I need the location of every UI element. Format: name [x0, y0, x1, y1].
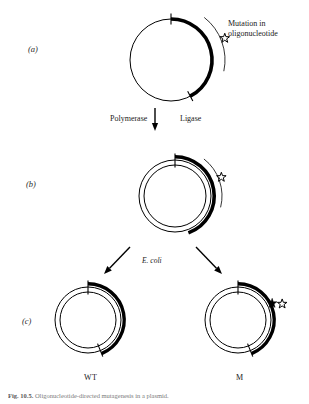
- mutation-annotation-line1: Mutation in: [228, 19, 278, 29]
- panel-label-a: (a): [28, 44, 38, 54]
- arrow-a-to-b: [152, 108, 158, 131]
- oligonucleotide-arc: [171, 19, 212, 96]
- complementary-strand: [144, 165, 206, 227]
- arrow-b-to-wt: [104, 247, 130, 274]
- figure-canvas: [0, 0, 309, 404]
- mutant-label: M: [236, 373, 244, 382]
- mutation-star-open: [217, 172, 227, 181]
- template-strand: [55, 287, 121, 353]
- oligonucleotide-arc: [175, 157, 214, 233]
- mutation-star-open: [277, 299, 287, 308]
- oligonucleotide-arc: [88, 284, 124, 354]
- caption-number: Fig. 10.5.: [8, 392, 33, 399]
- arrow-shaft: [110, 247, 130, 268]
- arrow-b-to-m: [196, 247, 222, 274]
- panel-label-c: (c): [22, 316, 31, 326]
- oligonucleotide-arc: [238, 284, 274, 354]
- wild-type-circle: [55, 281, 124, 357]
- ligase-label: Ligase: [180, 114, 201, 124]
- mutation-annotation-line2: oligonucleotide: [228, 29, 278, 39]
- ecoli-label: E. coli: [142, 256, 162, 265]
- heteroduplex-circle-b: [139, 154, 226, 233]
- diagram-svg: [0, 0, 309, 404]
- template-strand: [139, 160, 211, 232]
- panel-label-b: (b): [26, 179, 36, 189]
- template-circle-a: [130, 14, 230, 102]
- mutation-annotation: Mutation in oligonucleotide: [228, 19, 278, 39]
- mutant-circle: [205, 281, 287, 357]
- arrow-shaft: [196, 247, 216, 268]
- wild-type-label: WT: [84, 373, 97, 382]
- complementary-strand: [60, 292, 116, 348]
- figure-caption: Fig. 10.5. Oligonucleotide-directed muta…: [8, 392, 309, 399]
- arrow-head: [152, 123, 158, 131]
- polymerase-label: Polymerase: [110, 114, 147, 124]
- caption-text: Oligonucleotide-directed mutagenesis in …: [35, 392, 169, 399]
- complementary-strand: [210, 292, 266, 348]
- template-strand: [205, 287, 271, 353]
